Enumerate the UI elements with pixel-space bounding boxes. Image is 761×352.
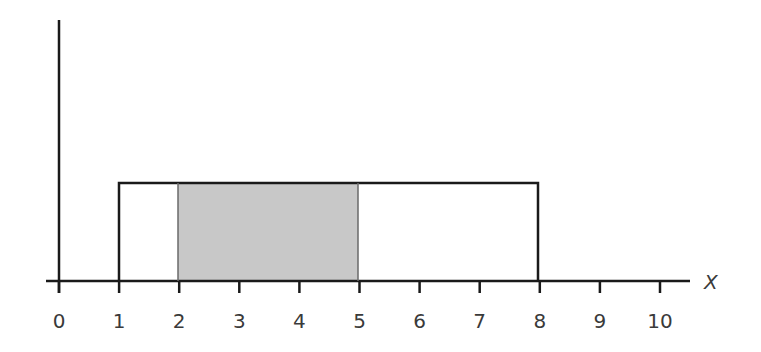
x-tick-label: 6 <box>413 309 426 333</box>
x-tick-labels: 012345678910 <box>53 309 673 333</box>
x-tick-label: 1 <box>113 309 126 333</box>
x-tick-label: 7 <box>473 309 486 333</box>
x-tick-label: 5 <box>353 309 366 333</box>
uniform-distribution-chart: 012345678910 X <box>0 0 761 352</box>
x-ticks <box>59 281 660 293</box>
shaded-region <box>178 183 358 281</box>
x-tick-label: 3 <box>233 309 246 333</box>
x-tick-label: 10 <box>647 309 672 333</box>
x-axis-label: X <box>703 270 719 294</box>
x-tick-label: 4 <box>293 309 306 333</box>
x-tick-label: 0 <box>53 309 66 333</box>
x-tick-label: 8 <box>533 309 546 333</box>
x-tick-label: 9 <box>594 309 607 333</box>
x-tick-label: 2 <box>173 309 186 333</box>
